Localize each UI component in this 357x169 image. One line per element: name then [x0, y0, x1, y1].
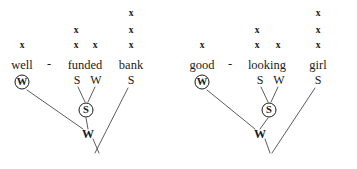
dependency-x-marker: x: [255, 26, 260, 36]
parse-tree-right: xxxxxxxgood-lookinggirlSWSWWS: [180, 0, 357, 169]
dependency-x-marker: x: [20, 41, 25, 51]
circled-node-s: S: [262, 103, 277, 118]
cat-funded-right: W: [90, 74, 101, 86]
tree-branch: [95, 88, 128, 153]
dependency-x-marker: x: [74, 41, 79, 51]
dependency-x-marker: x: [255, 41, 260, 51]
circled-category-label: S: [79, 103, 94, 118]
circled-category-label: W: [15, 75, 30, 90]
tree-branch: [207, 90, 255, 129]
tree-branch: [271, 87, 278, 102]
tree-branch: [78, 87, 85, 102]
tree-branch: [88, 87, 95, 102]
token-looking: looking: [248, 59, 286, 72]
dependency-x-marker: x: [316, 41, 321, 51]
circled-category-label: S: [262, 103, 277, 118]
tree-branch: [261, 87, 268, 102]
dependency-x-marker: x: [93, 41, 98, 51]
token-girl: girl: [309, 59, 326, 72]
token-good: good: [190, 59, 215, 72]
circled-category-label: W: [195, 75, 210, 90]
cat-bank: S: [128, 74, 135, 86]
cat-looking-right: W: [273, 74, 284, 86]
parse-tree-left: xxxxxxxwell-fundedbankSWSWWS: [0, 0, 180, 169]
dependency-x-marker: x: [74, 26, 79, 36]
cat-looking-left: S: [257, 74, 264, 86]
cat-girl: S: [315, 74, 322, 86]
cat-root: W: [82, 128, 94, 140]
dependency-x-marker: x: [316, 9, 321, 19]
cat-root: W: [254, 128, 266, 140]
tree-branch: [265, 139, 270, 153]
dependency-x-marker: x: [129, 26, 134, 36]
token-funded: funded: [68, 59, 103, 72]
dependency-x-marker: x: [129, 41, 134, 51]
circled-node-w: W: [195, 75, 210, 90]
tree-branch: [93, 139, 99, 153]
dependency-x-marker: x: [316, 26, 321, 36]
dependency-x-marker: x: [129, 9, 134, 19]
token-hyphen: -: [228, 58, 232, 71]
token-bank: bank: [119, 59, 143, 72]
circled-node-s: S: [79, 103, 94, 118]
tree-branch: [272, 88, 315, 153]
token-well: well: [11, 59, 33, 72]
cat-funded-left: S: [74, 74, 81, 86]
circled-node-w: W: [15, 75, 30, 90]
token-hyphen: -: [47, 58, 51, 71]
dependency-x-marker: x: [200, 41, 205, 51]
dependency-x-marker: x: [276, 41, 281, 51]
parse-tree-figure: xxxxxxxwell-fundedbankSWSWWS xxxxxxxgood…: [0, 0, 357, 169]
tree-branch: [27, 90, 83, 129]
